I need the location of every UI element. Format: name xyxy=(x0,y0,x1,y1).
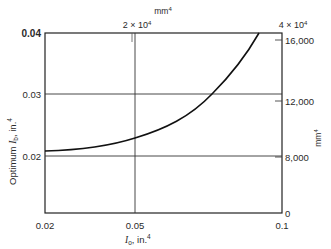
top-tick-label-2e4: 2 × 104 xyxy=(123,20,152,30)
data-curve xyxy=(45,33,259,151)
y-tick-0.02: 0.02 xyxy=(23,151,42,162)
y-tick-0.04: 0.04 xyxy=(22,28,42,39)
right-tick-label-8000: 8,000 xyxy=(285,152,309,163)
right-axis-label: mm4 xyxy=(313,129,323,147)
x-tick-0.1: 0.1 xyxy=(275,220,288,231)
right-tick-label-12000: 12,000 xyxy=(285,96,314,107)
top-tick-label-4e4: 4 × 104 xyxy=(279,20,308,30)
y-tick-0.03: 0.03 xyxy=(23,89,42,100)
x-axis-label: Io, in.4 xyxy=(124,233,151,246)
y-axis-label: Optimum Ib, in.4 xyxy=(6,118,19,185)
chart: 0.04 0.03 0.02 0.02 0.05 0.1 Io, in.4 Op… xyxy=(0,0,331,249)
x-tick-0.02: 0.02 xyxy=(36,220,55,231)
right-tick-label-0: 0 xyxy=(285,208,290,219)
top-axis-label: mm4 xyxy=(154,6,172,16)
right-tick-label-16000: 16,000 xyxy=(285,35,314,46)
plot-frame xyxy=(45,33,282,213)
x-tick-0.05: 0.05 xyxy=(126,220,145,231)
